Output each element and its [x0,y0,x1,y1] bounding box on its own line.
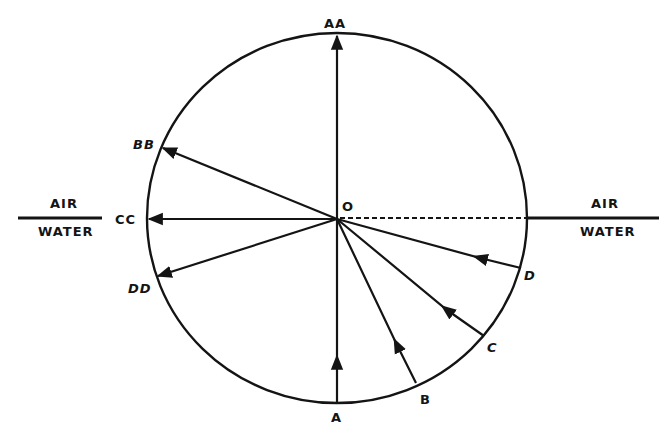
ray-BB [163,148,337,219]
left-air-label: AIR [50,196,78,211]
label-A: A [331,410,342,425]
label-AA: AA [324,16,346,31]
right-air-label: AIR [591,196,619,211]
label-O: O [342,199,354,214]
ray-B [337,219,416,383]
ray-D [337,219,521,268]
label-DD: DD [128,281,152,296]
label-B: B [420,392,431,407]
left-water-label: WATER [38,224,94,239]
label-BB: BB [133,137,155,152]
right-water-label: WATER [580,224,636,239]
label-D: D [524,268,536,283]
refraction-diagram: AA BB CC DD A B C D O AIR WATER AIR WATE… [0,0,666,436]
label-CC: CC [115,212,136,227]
label-C: C [487,340,498,355]
ray-DD [158,219,337,276]
ray-C [337,219,484,336]
